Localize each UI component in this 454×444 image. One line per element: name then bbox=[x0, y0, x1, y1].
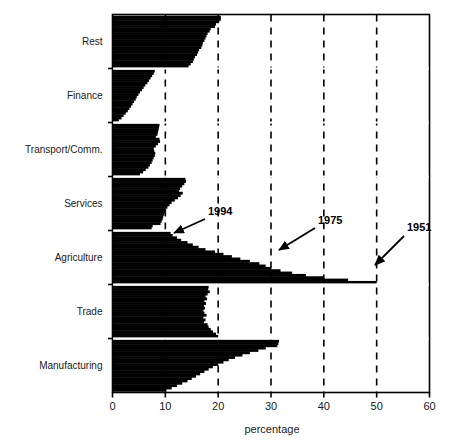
category-label-transport-comm: Transport/Comm. bbox=[25, 144, 102, 155]
bar-row bbox=[113, 335, 219, 338]
category-label-finance: Finance bbox=[67, 90, 103, 101]
annotation-label-1975: 1975 bbox=[318, 214, 342, 226]
x-tick-label-60: 60 bbox=[423, 400, 435, 412]
x-tick-label-50: 50 bbox=[371, 400, 383, 412]
x-axis-title: percentage bbox=[244, 423, 299, 435]
category-label-manufacturing: Manufacturing bbox=[39, 360, 102, 371]
annotation-label-1994: 1994 bbox=[208, 205, 233, 217]
x-tick-label-30: 30 bbox=[265, 400, 277, 412]
bar-row bbox=[113, 65, 189, 68]
chart-background bbox=[0, 0, 454, 444]
bar-row bbox=[113, 281, 377, 284]
x-tick-label-10: 10 bbox=[159, 400, 171, 412]
category-label-rest: Rest bbox=[82, 36, 103, 47]
bar-row bbox=[113, 119, 119, 122]
annotation-label-1951: 1951 bbox=[407, 221, 431, 233]
x-tick-label-0: 0 bbox=[109, 400, 115, 412]
bar-chart-svg: 0102030405060 RestFinanceTransport/Comm.… bbox=[0, 0, 454, 444]
chart-figure: 0102030405060 RestFinanceTransport/Comm.… bbox=[0, 0, 454, 444]
x-tick-label-20: 20 bbox=[212, 400, 224, 412]
bar-row bbox=[113, 173, 140, 176]
category-label-services: Services bbox=[64, 198, 102, 209]
bar-row bbox=[113, 227, 152, 230]
x-tick-label-40: 40 bbox=[318, 400, 330, 412]
bar-row bbox=[113, 389, 167, 392]
category-label-trade: Trade bbox=[77, 306, 103, 317]
category-label-agriculture: Agriculture bbox=[55, 252, 103, 263]
